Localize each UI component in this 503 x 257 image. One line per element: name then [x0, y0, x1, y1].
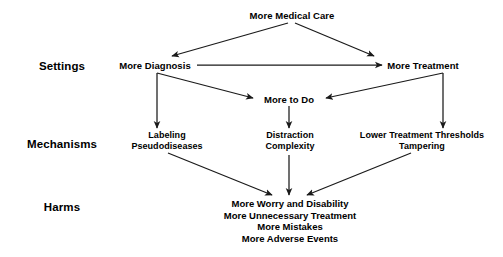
edge-treatment-to-moretodo	[326, 73, 443, 98]
harms-item: More Unnecessary Treatment	[224, 210, 357, 222]
node-labeling-line-1: Labeling	[131, 130, 202, 141]
edge-thresholds-to-harms	[307, 153, 411, 195]
row-label-settings: Settings	[39, 61, 85, 72]
harms-item: More Worry and Disability	[224, 198, 357, 210]
node-distraction-complexity: Distraction Complexity	[265, 130, 314, 152]
node-thresholds-line-2: Tampering	[360, 141, 484, 152]
harms-item: More Mistakes	[224, 221, 357, 233]
node-more-treatment: More Treatment	[387, 60, 458, 71]
node-labeling-line-2: Pseudodiseases	[131, 141, 202, 152]
node-lower-treatment-thresholds: Lower Treatment Thresholds Tampering	[360, 130, 484, 152]
row-label-mechanisms: Mechanisms	[27, 139, 97, 150]
medical-care-harms-diagram: Settings Mechanisms Harms More Medical C…	[0, 0, 503, 257]
node-harms-list: More Worry and Disability More Unnecessa…	[224, 198, 357, 244]
edge-labeling-to-harms	[168, 153, 272, 195]
edge-diagnosis-to-moretodo	[157, 73, 253, 98]
edge-top-to-diagnosis	[172, 23, 288, 56]
node-more-to-do: More to Do	[264, 94, 314, 105]
node-more-diagnosis: More Diagnosis	[119, 60, 190, 71]
node-thresholds-line-1: Lower Treatment Thresholds	[360, 130, 484, 141]
node-more-medical-care: More Medical Care	[250, 10, 335, 21]
node-distraction-line-2: Complexity	[265, 141, 314, 152]
node-labeling-pseudodiseases: Labeling Pseudodiseases	[131, 130, 202, 152]
row-label-harms: Harms	[44, 202, 80, 213]
node-distraction-line-1: Distraction	[265, 130, 314, 141]
harms-item: More Adverse Events	[224, 233, 357, 245]
edge-top-to-treatment	[295, 23, 374, 56]
